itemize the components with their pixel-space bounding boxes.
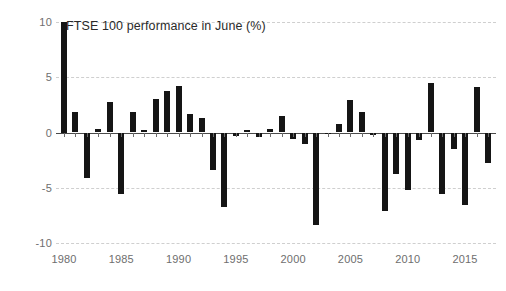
x-tick-mark bbox=[247, 133, 248, 137]
x-tick-mark bbox=[98, 133, 99, 137]
x-tick-label: 1995 bbox=[223, 253, 248, 265]
x-tick-mark bbox=[190, 133, 191, 137]
x-tick-label: 2015 bbox=[452, 253, 477, 265]
y-tick-label: 0 bbox=[18, 127, 52, 139]
x-tick-mark bbox=[442, 133, 443, 137]
x-tick-mark bbox=[259, 133, 260, 137]
y-tick-label: 5 bbox=[18, 71, 52, 83]
bar bbox=[359, 112, 365, 133]
x-tick-mark bbox=[328, 133, 329, 137]
x-axis-labels: 19801985199019952000200520102015 bbox=[0, 253, 506, 269]
gridline bbox=[56, 77, 496, 78]
bar bbox=[279, 116, 285, 133]
x-tick-mark bbox=[305, 133, 306, 137]
x-tick-mark bbox=[477, 133, 478, 137]
x-tick-mark bbox=[202, 133, 203, 137]
bar bbox=[176, 86, 182, 132]
x-tick-mark bbox=[454, 133, 455, 137]
x-tick-mark bbox=[270, 133, 271, 137]
x-tick-mark bbox=[396, 133, 397, 137]
bar bbox=[462, 133, 468, 206]
chart-title: FTSE 100 performance in June (%) bbox=[66, 19, 266, 33]
x-tick-mark bbox=[121, 133, 122, 137]
bar bbox=[118, 133, 124, 195]
x-tick-mark bbox=[87, 133, 88, 137]
x-tick-label: 2010 bbox=[395, 253, 420, 265]
y-tick-label: 10 bbox=[18, 16, 52, 28]
bar bbox=[61, 22, 67, 133]
y-tick-label: -10 bbox=[18, 237, 52, 249]
bar bbox=[267, 129, 273, 132]
x-tick-label: 2000 bbox=[281, 253, 306, 265]
x-tick-mark bbox=[75, 133, 76, 137]
x-tick-mark bbox=[385, 133, 386, 137]
bar bbox=[405, 133, 411, 190]
x-tick-mark bbox=[362, 133, 363, 137]
bar bbox=[164, 91, 170, 133]
x-tick-mark bbox=[419, 133, 420, 137]
bar bbox=[199, 118, 205, 132]
ftse-june-performance-chart: 1050-5-10 198019851990199520002005201020… bbox=[0, 0, 506, 291]
x-tick-mark bbox=[465, 133, 466, 137]
x-tick-mark bbox=[64, 133, 65, 137]
x-tick-mark bbox=[144, 133, 145, 137]
bar bbox=[221, 133, 227, 207]
bar bbox=[107, 102, 113, 133]
x-tick-mark bbox=[156, 133, 157, 137]
x-tick-label: 1985 bbox=[109, 253, 134, 265]
x-tick-mark bbox=[488, 133, 489, 137]
x-tick-mark bbox=[224, 133, 225, 137]
x-tick-mark bbox=[316, 133, 317, 137]
x-tick-mark bbox=[167, 133, 168, 137]
bar bbox=[336, 124, 342, 133]
x-tick-mark bbox=[350, 133, 351, 137]
x-tick-mark bbox=[213, 133, 214, 137]
x-tick-mark bbox=[373, 133, 374, 137]
x-tick-mark bbox=[282, 133, 283, 137]
bar bbox=[428, 83, 434, 133]
bar bbox=[393, 133, 399, 175]
x-tick-mark bbox=[133, 133, 134, 137]
x-tick-label: 2005 bbox=[338, 253, 363, 265]
bar bbox=[95, 129, 101, 132]
bar bbox=[439, 133, 445, 195]
x-tick-label: 1980 bbox=[51, 253, 76, 265]
bar bbox=[313, 133, 319, 226]
bar bbox=[210, 133, 216, 171]
bar bbox=[72, 112, 78, 133]
bar bbox=[84, 133, 90, 178]
x-tick-mark bbox=[339, 133, 340, 137]
x-tick-mark bbox=[236, 133, 237, 137]
bar bbox=[187, 114, 193, 133]
gridline bbox=[56, 243, 496, 244]
bar bbox=[153, 99, 159, 132]
bar bbox=[382, 133, 388, 211]
x-tick-mark bbox=[179, 133, 180, 137]
bar bbox=[474, 87, 480, 132]
bar bbox=[347, 100, 353, 132]
x-tick-mark bbox=[110, 133, 111, 137]
y-axis: 1050-5-10 bbox=[0, 22, 52, 243]
bar bbox=[130, 112, 136, 133]
x-tick-mark bbox=[431, 133, 432, 137]
x-tick-mark bbox=[293, 133, 294, 137]
x-tick-mark bbox=[408, 133, 409, 137]
y-tick-label: -5 bbox=[18, 182, 52, 194]
x-tick-label: 1990 bbox=[166, 253, 191, 265]
x-axis-ticks bbox=[56, 133, 496, 138]
